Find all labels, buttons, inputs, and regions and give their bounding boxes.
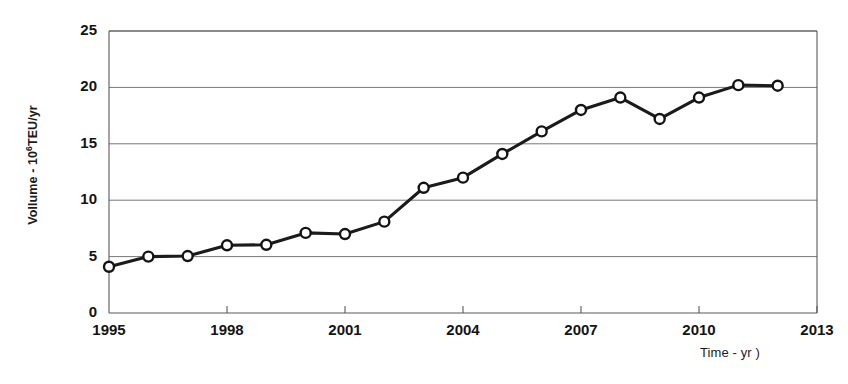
data-point-marker bbox=[497, 149, 507, 159]
data-point-marker bbox=[419, 183, 429, 193]
gridlines bbox=[109, 31, 817, 257]
data-point-marker bbox=[104, 262, 114, 272]
data-point-marker bbox=[615, 93, 625, 103]
series-polyline bbox=[109, 85, 778, 267]
data-series-line bbox=[109, 85, 778, 267]
plot-area bbox=[0, 0, 848, 384]
data-point-marker bbox=[143, 252, 153, 262]
data-point-marker bbox=[576, 105, 586, 115]
data-point-marker bbox=[773, 81, 783, 91]
data-point-marker bbox=[222, 240, 232, 250]
data-point-marker bbox=[379, 217, 389, 227]
data-point-marker bbox=[301, 228, 311, 238]
chart-container: Vollume - 106TEU/yr Time - yr ) 05101520… bbox=[0, 0, 848, 384]
data-point-marker bbox=[733, 80, 743, 90]
data-point-marker bbox=[183, 251, 193, 261]
data-point-marker bbox=[340, 229, 350, 239]
data-point-marker bbox=[261, 240, 271, 250]
x-axis-tick-marks bbox=[227, 306, 817, 313]
data-point-marker bbox=[537, 126, 547, 136]
data-point-marker bbox=[458, 173, 468, 183]
data-point-marker bbox=[655, 114, 665, 124]
data-point-marker bbox=[694, 93, 704, 103]
